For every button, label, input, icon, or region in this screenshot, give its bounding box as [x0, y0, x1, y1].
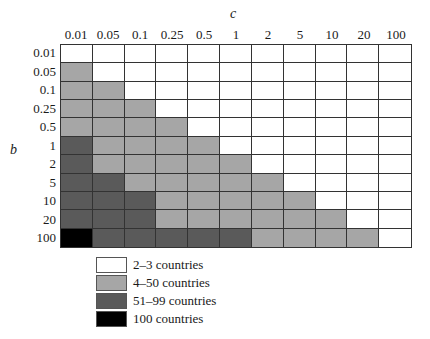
heatmap-cell — [379, 63, 411, 81]
heatmap-cell — [156, 192, 188, 210]
x-tick-label: 1 — [220, 27, 252, 43]
heatmap-cell — [220, 229, 252, 247]
heatmap-cell — [93, 174, 125, 192]
heatmap-cell — [61, 82, 93, 100]
heatmap-cell — [284, 82, 316, 100]
legend-swatch — [96, 311, 127, 327]
heatmap-cell — [61, 210, 93, 228]
heatmap-cell — [316, 137, 348, 155]
heatmap-cell — [347, 100, 379, 118]
heatmap-cell — [61, 137, 93, 155]
heatmap-cell — [316, 174, 348, 192]
heatmap-cell — [188, 45, 220, 63]
heatmap-cell — [316, 100, 348, 118]
heatmap-cell — [156, 229, 188, 247]
heatmap-cell — [220, 174, 252, 192]
y-tick-label: 100 — [18, 229, 56, 248]
x-tick-label: 5 — [284, 27, 316, 43]
heatmap-cell — [188, 63, 220, 81]
y-tick-label: 20 — [18, 211, 56, 230]
heatmap-cell — [93, 155, 125, 173]
y-tick-label: 0.01 — [18, 44, 56, 63]
heatmap-cell — [125, 118, 157, 136]
heatmap-cell — [156, 63, 188, 81]
heatmap-cell — [316, 229, 348, 247]
heatmap-cell — [125, 174, 157, 192]
heatmap-cell — [284, 100, 316, 118]
y-tick-label: 0.25 — [18, 100, 56, 119]
heatmap-cell — [252, 192, 284, 210]
legend-item: 51–99 countries — [96, 292, 216, 310]
heatmap-cell — [284, 137, 316, 155]
heatmap-cell — [220, 155, 252, 173]
heatmap-cell — [284, 45, 316, 63]
heatmap-cell — [379, 118, 411, 136]
heatmap-cell — [316, 192, 348, 210]
legend-item: 4–50 countries — [96, 274, 216, 292]
heatmap-cell — [125, 192, 157, 210]
heatmap-cell — [379, 210, 411, 228]
heatmap-cell — [379, 82, 411, 100]
heatmap-cell — [188, 229, 220, 247]
heatmap-cell — [188, 174, 220, 192]
heatmap-cell — [93, 137, 125, 155]
heatmap-cell — [125, 45, 157, 63]
heatmap-cell — [188, 100, 220, 118]
heatmap-cell — [156, 45, 188, 63]
heatmap-cell — [316, 118, 348, 136]
heatmap-cell — [220, 118, 252, 136]
x-tick-label: 0.5 — [188, 27, 220, 43]
heatmap-cell — [379, 155, 411, 173]
heatmap-cell — [188, 210, 220, 228]
heatmap-cell — [61, 155, 93, 173]
heatmap-cell — [284, 174, 316, 192]
y-tick-label: 1 — [18, 137, 56, 156]
heatmap-cell — [156, 137, 188, 155]
y-tick-label: 0.05 — [18, 63, 56, 82]
heatmap-cell — [125, 100, 157, 118]
heatmap-cell — [125, 82, 157, 100]
heatmap-cell — [220, 82, 252, 100]
heatmap-cell — [252, 82, 284, 100]
heatmap-cell — [93, 100, 125, 118]
heatmap-cell — [284, 155, 316, 173]
heatmap-cell — [252, 137, 284, 155]
y-tick-label: 10 — [18, 192, 56, 211]
x-tick-label: 0.25 — [156, 27, 188, 43]
heatmap-cell — [220, 192, 252, 210]
heatmap-cell — [188, 192, 220, 210]
heatmap-cell — [188, 118, 220, 136]
y-tick-label: 2 — [18, 155, 56, 174]
heatmap-cell — [252, 63, 284, 81]
heatmap-cell — [156, 100, 188, 118]
heatmap-cell — [156, 174, 188, 192]
heatmap-cell — [61, 174, 93, 192]
heatmap-cell — [284, 210, 316, 228]
x-tick-label: 20 — [348, 27, 380, 43]
heatmap-cell — [125, 210, 157, 228]
y-tick-label: 0.5 — [18, 118, 56, 137]
legend-swatch — [96, 275, 127, 291]
heatmap-cell — [347, 174, 379, 192]
heatmap-cell — [252, 100, 284, 118]
legend-swatch — [96, 257, 127, 273]
heatmap-cell — [347, 118, 379, 136]
legend: 2–3 countries4–50 countries51–99 countri… — [96, 256, 216, 328]
heatmap-cell — [347, 63, 379, 81]
heatmap-cell — [316, 82, 348, 100]
heatmap-cell — [347, 210, 379, 228]
heatmap-cell — [252, 45, 284, 63]
heatmap-cell — [284, 118, 316, 136]
x-axis-title: c — [230, 6, 236, 22]
heatmap-cell — [156, 82, 188, 100]
heatmap-grid — [60, 44, 412, 248]
heatmap-cell — [61, 229, 93, 247]
heatmap-cell — [284, 192, 316, 210]
heatmap-cell — [156, 155, 188, 173]
heatmap-cell — [379, 174, 411, 192]
heatmap-cell — [347, 155, 379, 173]
legend-item: 2–3 countries — [96, 256, 216, 274]
heatmap-cell — [93, 210, 125, 228]
heatmap-cell — [252, 229, 284, 247]
heatmap-cell — [61, 45, 93, 63]
